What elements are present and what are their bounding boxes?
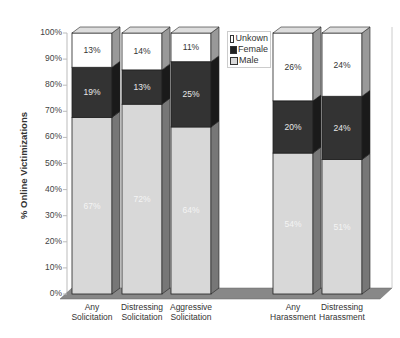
legend-swatch-female bbox=[230, 46, 237, 54]
svg-text:25%: 25% bbox=[182, 89, 199, 99]
bar-1: 72%13%14% bbox=[122, 27, 170, 294]
plot-area: 67%19%13%72%13%14%64%25%11%54%20%26%51%2… bbox=[0, 0, 400, 338]
svg-text:19%: 19% bbox=[83, 87, 100, 97]
legend-item-male: Male bbox=[230, 55, 268, 66]
legend-item-female: Female bbox=[230, 44, 268, 55]
svg-text:72%: 72% bbox=[133, 194, 150, 204]
svg-text:26%: 26% bbox=[284, 62, 301, 72]
legend-item-unknown: Unkown bbox=[230, 33, 268, 44]
svg-text:14%: 14% bbox=[133, 46, 150, 56]
bar-2: 64%25%11% bbox=[171, 27, 219, 294]
svg-text:11%: 11% bbox=[183, 42, 200, 52]
stacked-bar-chart: % Online Victimizations 0%10%20%30%40%50… bbox=[0, 0, 400, 338]
svg-text:24%: 24% bbox=[333, 60, 350, 70]
legend-swatch-unknown bbox=[230, 35, 234, 43]
x-tick-label: AggressiveSolicitation bbox=[156, 302, 226, 322]
legend: Unkown Female Male bbox=[227, 31, 271, 68]
svg-text:54%: 54% bbox=[284, 219, 301, 229]
bar-4: 51%24%24% bbox=[322, 27, 370, 294]
svg-text:13%: 13% bbox=[133, 82, 150, 92]
svg-text:20%: 20% bbox=[284, 122, 301, 132]
svg-text:13%: 13% bbox=[83, 45, 100, 55]
x-tick-label: DistressingHarassment bbox=[307, 302, 377, 322]
legend-swatch-male bbox=[230, 57, 238, 65]
svg-text:51%: 51% bbox=[333, 222, 350, 232]
svg-text:64%: 64% bbox=[182, 205, 199, 215]
svg-text:67%: 67% bbox=[83, 201, 100, 211]
bar-0: 67%19%13% bbox=[72, 27, 120, 294]
bar-3: 54%20%26% bbox=[273, 27, 321, 294]
svg-text:24%: 24% bbox=[333, 123, 350, 133]
